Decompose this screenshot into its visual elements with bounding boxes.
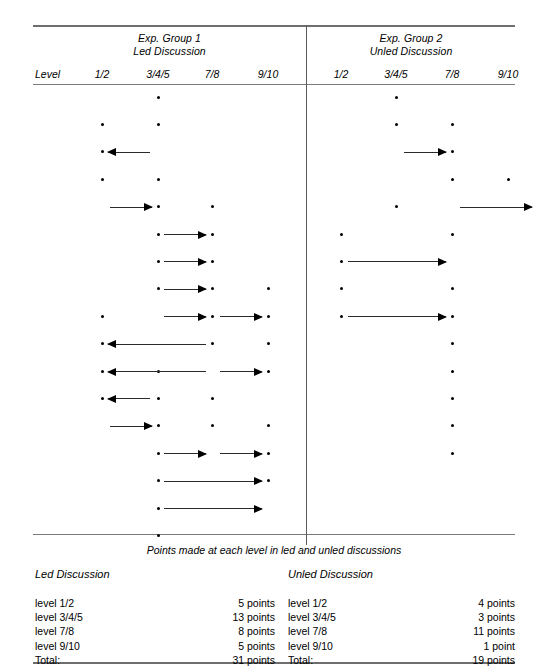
data-point (157, 260, 160, 263)
table-row: level 1/2 5 points (35, 596, 275, 610)
group-1-title: Exp. Group 1 Led Discussion (33, 32, 306, 58)
data-point (451, 424, 454, 427)
arrow-right-icon (164, 316, 206, 317)
col-header-g2-1-2: 1/2 (321, 68, 361, 80)
col-header-g2-3-4-5: 3/4/5 (374, 68, 418, 80)
data-point (157, 397, 160, 400)
arrow-right-icon (110, 426, 152, 427)
col-header-g2-9-10: 9/10 (486, 68, 530, 80)
data-point (157, 96, 160, 99)
data-point (340, 287, 343, 290)
figure-container: Exp. Group 1 Led Discussion Exp. Group 2… (0, 0, 548, 670)
col-header-g2-7-8: 7/8 (432, 68, 472, 80)
summary-left-value-1: 13 points (232, 610, 275, 624)
summary-right-value-3: 1 point (483, 639, 515, 653)
data-point (451, 178, 454, 181)
table-row: level 3/4/5 3 points (288, 610, 515, 624)
arrow-right-icon (348, 316, 446, 317)
arrow-right-icon (164, 481, 262, 482)
data-point (101, 178, 104, 181)
figure-caption: Points made at each level in led and unl… (0, 544, 548, 556)
data-point (340, 233, 343, 236)
summary-right-title: Unled Discussion (288, 568, 373, 580)
table-row-total: Total: 19 points (288, 653, 515, 667)
data-point (451, 233, 454, 236)
arrow-head-icon (144, 203, 153, 211)
arrow-head-icon (524, 203, 533, 211)
data-point (395, 205, 398, 208)
data-point (211, 287, 214, 290)
data-point (157, 507, 160, 510)
data-point (211, 205, 214, 208)
data-point (157, 424, 160, 427)
data-point (267, 315, 270, 318)
summary-right-value-2: 11 points (473, 624, 515, 638)
data-point (451, 397, 454, 400)
data-point (157, 479, 160, 482)
arrow-head-icon (107, 340, 116, 348)
data-point (157, 287, 160, 290)
arrow-head-icon (107, 148, 116, 156)
summary-left-label-0: level 1/2 (35, 596, 74, 610)
data-point (340, 260, 343, 263)
arrow-right-icon (164, 289, 206, 290)
summary-left-value-total: 31 points (232, 653, 275, 667)
plot-bottom-rule (33, 534, 515, 535)
col-header-g1-1-2: 1/2 (82, 68, 122, 80)
summary-right-label-0: level 1/2 (288, 596, 327, 610)
summary-right-value-0: 4 points (478, 596, 515, 610)
table-row: level 9/10 1 point (288, 639, 515, 653)
group-1-title-line1: Exp. Group 1 (33, 32, 306, 45)
data-point (340, 315, 343, 318)
arrow-head-icon (438, 313, 447, 321)
arrow-head-icon (107, 395, 116, 403)
data-point (267, 479, 270, 482)
arrow-left-icon (108, 371, 206, 372)
data-point (267, 342, 270, 345)
arrow-right-icon (164, 508, 262, 509)
data-point (157, 205, 160, 208)
summary-right-value-1: 3 points (478, 610, 515, 624)
col-header-g1-9-10: 9/10 (246, 68, 290, 80)
data-point (395, 123, 398, 126)
data-point (451, 150, 454, 153)
data-point (101, 370, 104, 373)
col-header-g1-7-8: 7/8 (192, 68, 232, 80)
data-point (211, 315, 214, 318)
arrow-head-icon (254, 313, 263, 321)
arrow-head-icon (254, 477, 263, 485)
summary-right-value-total: 19 points (472, 653, 515, 667)
arrow-right-icon (460, 207, 532, 208)
summary-right-label-2: level 7/8 (288, 624, 327, 638)
arrow-head-icon (198, 285, 207, 293)
group-2-title-line1: Exp. Group 2 (307, 32, 515, 45)
data-point (451, 123, 454, 126)
level-axis-label: Level (35, 68, 60, 80)
arrow-head-icon (198, 313, 207, 321)
summary-left-value-0: 5 points (238, 596, 275, 610)
table-row: level 7/8 8 points (35, 624, 275, 638)
data-point (101, 342, 104, 345)
arrow-right-icon (110, 207, 152, 208)
summary-right-label-total: Total: (288, 653, 313, 667)
arrow-left-icon (108, 344, 206, 345)
data-point (267, 424, 270, 427)
summary-left-label-1: level 3/4/5 (35, 610, 83, 624)
data-point (211, 260, 214, 263)
arrow-left-icon (108, 398, 150, 399)
data-point (211, 397, 214, 400)
data-point (267, 452, 270, 455)
top-rule (33, 25, 515, 27)
group-2-title-line2: Unled Discussion (307, 45, 515, 58)
data-point (101, 397, 104, 400)
arrow-right-icon (220, 371, 262, 372)
arrow-head-icon (198, 258, 207, 266)
data-point (451, 452, 454, 455)
table-row: level 9/10 5 points (35, 639, 275, 653)
arrow-head-icon (254, 505, 263, 513)
arrow-head-icon (438, 148, 447, 156)
arrow-right-icon (348, 261, 446, 262)
table-row: level 7/8 11 points (288, 624, 515, 638)
table-row-total: Total: 31 points (35, 653, 275, 667)
summary-left-value-3: 5 points (238, 639, 275, 653)
